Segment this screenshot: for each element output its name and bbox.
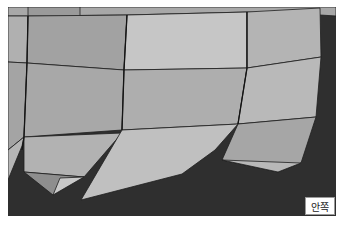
face-top-left-strip (28, 7, 80, 16)
inside-label-text: 안쪽 (311, 199, 330, 214)
mesh-render-figure: 안쪽 (8, 7, 336, 216)
face-r2-c2 (122, 68, 247, 130)
inside-label: 안쪽 (305, 197, 335, 215)
mesh-polygons (8, 7, 336, 216)
face-r2-c1 (24, 63, 124, 137)
face-left-upper (8, 16, 28, 63)
face-r1-c1 (27, 15, 127, 70)
face-r1-c2 (124, 12, 247, 70)
